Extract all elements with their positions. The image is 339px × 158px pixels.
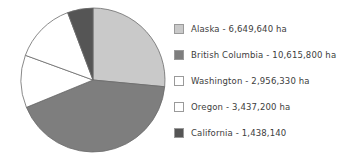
legend-label-washington: Washington - 2,956,330 ha bbox=[191, 76, 310, 86]
legend-swatch-oregon bbox=[174, 102, 184, 112]
legend-item-california[interactable]: California - 1,438,140 bbox=[174, 126, 286, 140]
legend-label-oregon: Oregon - 3,437,200 ha bbox=[191, 102, 290, 112]
pie-slice-group bbox=[21, 8, 165, 152]
legend-swatch-alaska bbox=[174, 24, 184, 34]
legend-label-alaska: Alaska - 6,649,640 ha bbox=[191, 24, 287, 34]
pie-slice-alaska[interactable] bbox=[93, 8, 165, 87]
legend-swatch-california bbox=[174, 128, 184, 138]
pie-chart-panel bbox=[0, 0, 175, 158]
legend-item-british-columbia[interactable]: British Columbia - 10,615,800 ha bbox=[174, 48, 336, 62]
pie-chart-screenshot: Alaska - 6,649,640 ha British Columbia -… bbox=[0, 0, 339, 158]
legend-label-british-columbia: British Columbia - 10,615,800 ha bbox=[191, 50, 336, 60]
pie-chart-graphic bbox=[0, 0, 175, 158]
legend-swatch-british-columbia bbox=[174, 50, 184, 60]
chart-legend: Alaska - 6,649,640 ha British Columbia -… bbox=[174, 20, 339, 138]
legend-item-washington[interactable]: Washington - 2,956,330 ha bbox=[174, 74, 310, 88]
legend-swatch-washington bbox=[174, 76, 184, 86]
legend-label-california: California - 1,438,140 bbox=[191, 128, 286, 138]
legend-item-alaska[interactable]: Alaska - 6,649,640 ha bbox=[174, 22, 287, 36]
legend-item-oregon[interactable]: Oregon - 3,437,200 ha bbox=[174, 100, 290, 114]
